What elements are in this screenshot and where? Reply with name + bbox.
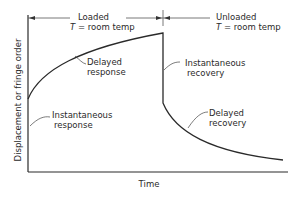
phase-label-unloaded: Unloaded xyxy=(216,12,256,22)
phase-label-loaded: Loaded xyxy=(78,12,109,22)
annotation-instantaneous-response-2: response xyxy=(54,120,93,130)
annotation-instantaneous-recovery-2: recovery xyxy=(187,68,224,78)
annotation-delayed-recovery-1: Delayed xyxy=(209,108,244,118)
annotation-delayed-recovery-2: recovery xyxy=(209,118,246,128)
phase-condition-unloaded: T = room temp xyxy=(216,22,281,32)
x-axis-label: Time xyxy=(138,179,160,189)
creep-recovery-diagram: Loaded T = room temp Unloaded T = room t… xyxy=(0,0,298,199)
response-curve xyxy=(28,33,283,160)
annotation-delayed-response-1: Delayed xyxy=(87,57,122,67)
phase-condition-loaded: T = room temp xyxy=(70,22,135,32)
annotation-instantaneous-response-1: Instantaneous xyxy=(52,110,113,120)
annotation-instantaneous-recovery-1: Instantaneous xyxy=(185,58,246,68)
annotation-delayed-response-2: response xyxy=(87,67,126,77)
y-axis-label: Displacement or fringe order xyxy=(13,38,23,161)
